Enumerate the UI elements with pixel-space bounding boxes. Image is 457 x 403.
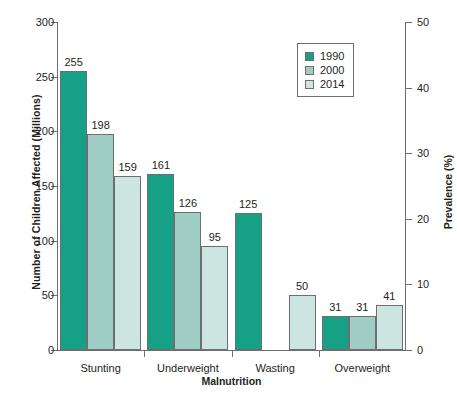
y-tick-label-right: 50 bbox=[417, 17, 457, 28]
bar-value-label: 255 bbox=[52, 57, 95, 68]
bar bbox=[376, 305, 403, 350]
y-tick-right bbox=[406, 153, 412, 154]
legend-swatch-icon bbox=[305, 66, 314, 75]
y-tick-right bbox=[406, 350, 412, 351]
x-axis-category-label: Overweight bbox=[319, 362, 406, 374]
bar bbox=[349, 316, 376, 350]
bar-value-label: 161 bbox=[139, 160, 182, 171]
bar-value-label: 50 bbox=[281, 281, 324, 292]
y-axis-left-line bbox=[57, 22, 58, 350]
bar bbox=[322, 316, 349, 350]
x-tick bbox=[144, 351, 145, 357]
y-tick-right bbox=[406, 88, 412, 89]
bar bbox=[201, 246, 228, 350]
y-tick-right bbox=[406, 22, 412, 23]
legend-item: 2014 bbox=[305, 77, 344, 91]
legend-label: 2000 bbox=[320, 65, 344, 76]
legend-item: 2000 bbox=[305, 63, 344, 77]
bar-value-label: 198 bbox=[79, 120, 122, 131]
y-axis-label-right: Prevalence (%) bbox=[442, 102, 454, 282]
x-tick bbox=[319, 351, 320, 357]
y-tick-label-left: 0 bbox=[14, 345, 54, 356]
bar-value-label: 95 bbox=[193, 232, 236, 243]
y-tick-label-right: 10 bbox=[417, 279, 457, 290]
y-tick-label-right: 40 bbox=[417, 83, 457, 94]
y-tick-right bbox=[406, 219, 412, 220]
y-tick-label-left: 50 bbox=[14, 290, 54, 301]
y-tick-label-left: 300 bbox=[14, 17, 54, 28]
legend-label: 1990 bbox=[320, 51, 344, 62]
y-tick-label-right: 30 bbox=[417, 148, 457, 159]
x-axis-label: Malnutrition bbox=[57, 375, 406, 387]
bar bbox=[60, 71, 87, 350]
x-axis-category-label: Underweight bbox=[144, 362, 231, 374]
y-tick-right bbox=[406, 284, 412, 285]
bar bbox=[235, 213, 262, 350]
bar bbox=[114, 176, 141, 350]
legend-item: 1990 bbox=[305, 49, 344, 63]
x-axis-category-label: Stunting bbox=[57, 362, 144, 374]
legend-label: 2014 bbox=[320, 79, 344, 90]
bar-value-label: 41 bbox=[368, 291, 411, 302]
y-tick-label-right: 0 bbox=[417, 345, 457, 356]
y-tick-label-left: 200 bbox=[14, 126, 54, 137]
legend: 199020002014 bbox=[297, 43, 354, 97]
x-axis-category-label: Wasting bbox=[232, 362, 319, 374]
bar-value-label: 126 bbox=[166, 198, 209, 209]
bar bbox=[289, 295, 316, 350]
legend-swatch-icon bbox=[305, 80, 314, 89]
y-tick-label-left: 250 bbox=[14, 72, 54, 83]
legend-swatch-icon bbox=[305, 52, 314, 61]
y-axis-label-left: Number of Children Affected (Millions) bbox=[30, 77, 42, 307]
y-tick-label-left: 100 bbox=[14, 236, 54, 247]
y-tick-label-right: 20 bbox=[417, 214, 457, 225]
y-tick-label-left: 150 bbox=[14, 181, 54, 192]
x-tick bbox=[232, 351, 233, 357]
bar-value-label: 125 bbox=[227, 199, 270, 210]
